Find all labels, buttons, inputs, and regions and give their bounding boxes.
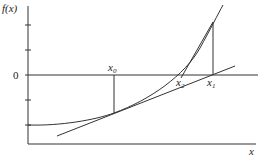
x0-label: x0	[107, 61, 117, 75]
zero-label: 0	[13, 69, 19, 81]
x-axis-label: x	[248, 145, 254, 157]
y-axis-label: f(x)	[2, 2, 18, 15]
function-curve	[28, 5, 223, 125]
newton-method-diagram: f(x) 0 x x0 x1 x2	[0, 0, 259, 158]
x1-label: x1	[206, 76, 215, 90]
tangent-x1	[181, 22, 213, 78]
x2-label: x2	[175, 76, 185, 90]
